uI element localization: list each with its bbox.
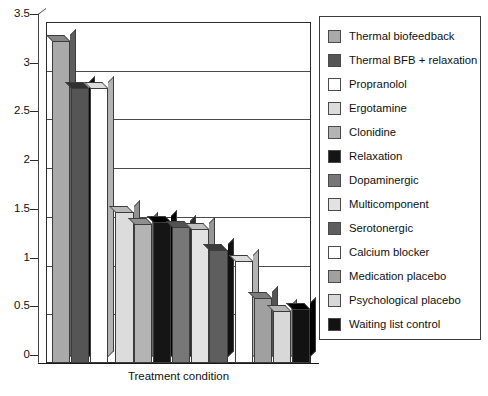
bar-front-face	[209, 250, 227, 363]
legend-item[interactable]: Dopaminergic	[328, 168, 474, 192]
legend-item[interactable]: Medication placebo	[328, 264, 474, 288]
bar	[134, 224, 152, 363]
bar-front-face	[90, 88, 108, 363]
bar	[235, 261, 253, 363]
bar-top-face	[229, 255, 253, 261]
legend-item-label: Multicomponent	[349, 198, 429, 210]
legend-item-label: Thermal BFB + relaxation	[349, 54, 477, 66]
legend-swatch-icon	[328, 150, 341, 163]
bar-front-face	[134, 224, 152, 363]
bar	[115, 212, 133, 363]
bar	[153, 222, 171, 363]
chart-screenshot: 00.511.522.533.5 Treatment condition The…	[0, 0, 488, 396]
legend-swatch-icon	[328, 78, 341, 91]
bar	[52, 41, 70, 363]
legend-swatch-icon	[328, 294, 341, 307]
legend-item-label: Clonidine	[349, 126, 396, 138]
bar	[191, 229, 209, 363]
legend-swatch-icon	[328, 30, 341, 43]
legend-item[interactable]: Thermal biofeedback	[328, 24, 474, 48]
bar	[273, 311, 291, 363]
legend-item[interactable]: Serotonergic	[328, 216, 474, 240]
bar-front-face	[191, 229, 209, 363]
bar-series	[0, 0, 320, 396]
legend-item[interactable]: Ergotamine	[328, 96, 474, 120]
bar-front-face	[292, 309, 310, 363]
legend-item-label: Thermal biofeedback	[349, 30, 455, 42]
legend-item-label: Relaxation	[349, 150, 402, 162]
chart-legend: Thermal biofeedbackThermal BFB + relaxat…	[319, 16, 481, 340]
legend-swatch-icon	[328, 318, 341, 331]
x-axis-line	[38, 363, 319, 364]
bar-side-face	[310, 297, 316, 357]
bar-front-face	[52, 41, 70, 363]
legend-swatch-icon	[328, 54, 341, 67]
legend-item-label: Dopaminergic	[349, 174, 419, 186]
legend-item-label: Propranolol	[349, 78, 407, 90]
bar	[90, 88, 108, 363]
legend-swatch-icon	[328, 198, 341, 211]
legend-item-label: Psychological placebo	[349, 294, 461, 306]
bar-front-face	[235, 261, 253, 363]
bar-chart: 00.511.522.533.5 Treatment condition	[0, 0, 320, 396]
bar-front-face	[153, 222, 171, 363]
bar-side-face	[108, 76, 114, 357]
legend-swatch-icon	[328, 126, 341, 139]
legend-item[interactable]: Waiting list control	[328, 312, 474, 336]
legend-item-label: Waiting list control	[349, 318, 440, 330]
x-axis-title: Treatment condition	[46, 370, 311, 382]
legend-item-label: Calcium blocker	[349, 246, 429, 258]
legend-item[interactable]: Psychological placebo	[328, 288, 474, 312]
bar	[172, 227, 190, 363]
legend-item-label: Medication placebo	[349, 270, 446, 282]
legend-item[interactable]: Multicomponent	[328, 192, 474, 216]
legend-item-label: Serotonergic	[349, 222, 413, 234]
legend-swatch-icon	[328, 102, 341, 115]
legend-item[interactable]: Thermal BFB + relaxation	[328, 48, 474, 72]
legend-item[interactable]: Propranolol	[328, 72, 474, 96]
legend-swatch-icon	[328, 222, 341, 235]
legend-swatch-icon	[328, 174, 341, 187]
legend-swatch-icon	[328, 246, 341, 259]
bar	[292, 309, 310, 363]
bar-front-face	[273, 311, 291, 363]
legend-item[interactable]: Calcium blocker	[328, 240, 474, 264]
legend-item[interactable]: Relaxation	[328, 144, 474, 168]
legend-item-label: Ergotamine	[349, 102, 407, 114]
bar-top-face	[46, 35, 70, 41]
bar-front-face	[115, 212, 133, 363]
bar-front-face	[71, 88, 89, 363]
bar	[209, 250, 227, 363]
legend-item[interactable]: Clonidine	[328, 120, 474, 144]
legend-swatch-icon	[328, 270, 341, 283]
bar-front-face	[172, 227, 190, 363]
bar	[71, 88, 89, 363]
